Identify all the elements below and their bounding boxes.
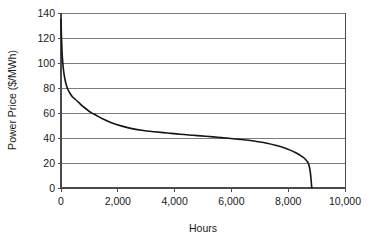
- x-tick-label: 0: [58, 195, 64, 207]
- y-tick-label: 80: [43, 82, 55, 94]
- x-tick-label: 10,000: [329, 195, 361, 207]
- x-axis-tick-marks: [61, 188, 345, 192]
- x-tick-label: 6,000: [218, 195, 244, 207]
- y-axis-title: Power Price ($/MWh): [6, 50, 18, 150]
- x-axis-title: Hours: [189, 222, 217, 234]
- x-tick-label: 8,000: [275, 195, 301, 207]
- chart-container: 020406080100120140 02,0004,0006,0008,000…: [0, 0, 372, 245]
- y-axis-tick-labels: 020406080100120140: [37, 7, 55, 194]
- y-tick-label: 100: [37, 57, 55, 69]
- x-tick-label: 4,000: [161, 195, 187, 207]
- x-axis-tick-labels: 02,0004,0006,0008,00010,000: [58, 195, 361, 207]
- y-tick-label: 40: [43, 132, 55, 144]
- y-tick-label: 120: [37, 32, 55, 44]
- price-duration-curve-chart: 020406080100120140 02,0004,0006,0008,000…: [0, 0, 372, 245]
- x-tick-label: 2,000: [105, 195, 131, 207]
- y-tick-label: 60: [43, 107, 55, 119]
- y-tick-label: 0: [49, 182, 55, 194]
- y-tick-label: 20: [43, 157, 55, 169]
- gridlines-group: [61, 13, 345, 163]
- y-tick-label: 140: [37, 7, 55, 19]
